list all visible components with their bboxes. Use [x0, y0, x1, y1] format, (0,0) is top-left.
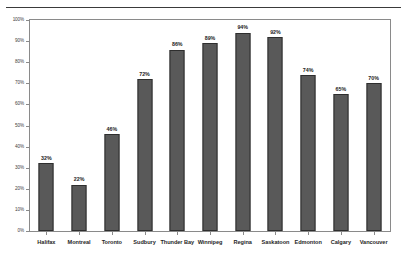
x-axis-tick-mark	[145, 232, 146, 235]
bar-value-label: 46%	[107, 127, 118, 132]
x-axis-tick-mark	[177, 232, 178, 235]
x-axis-tick-mark	[275, 232, 276, 235]
y-axis-tick-label: 90%	[15, 39, 24, 44]
y-axis-tick-mark	[26, 231, 29, 232]
bar-value-label: 65%	[336, 87, 347, 92]
bars-layer: 32%22%46%72%86%89%94%92%74%65%70%	[30, 20, 390, 231]
bar-value-label: 32%	[41, 156, 52, 161]
bar-value-label: 74%	[303, 68, 314, 73]
bar-value-label: 94%	[237, 25, 248, 30]
y-axis-tick-label: 40%	[15, 144, 24, 149]
bar[interactable]	[268, 37, 283, 231]
bar-value-label: 70%	[368, 76, 379, 81]
bar[interactable]	[235, 33, 250, 231]
x-axis-label: Edmonton	[290, 238, 326, 246]
y-axis-tick-label: 70%	[15, 81, 24, 86]
y-axis-tick-mark	[26, 147, 29, 148]
bar-group[interactable]: 74%	[292, 20, 325, 231]
x-axis-label: Montreal	[61, 238, 97, 246]
y-axis-tick-label: 60%	[15, 102, 24, 107]
bar-value-label: 92%	[270, 30, 281, 35]
bar-group[interactable]: 46%	[95, 20, 128, 231]
y-axis-tick-mark	[26, 168, 29, 169]
bar[interactable]	[72, 185, 87, 231]
x-axis-tick-mark	[79, 232, 80, 235]
x-axis-label: Saskatoon	[257, 238, 293, 246]
bar-value-label: 86%	[172, 42, 183, 47]
bar[interactable]	[39, 163, 54, 231]
x-axis-tick-mark	[112, 232, 113, 235]
x-axis-tick-mark	[341, 232, 342, 235]
x-axis	[30, 232, 390, 236]
x-axis-tick-mark	[374, 232, 375, 235]
bar-group[interactable]: 32%	[30, 20, 63, 231]
x-axis-label: Sudbury	[127, 238, 163, 246]
x-axis-label: Calgary	[323, 238, 359, 246]
bar[interactable]	[333, 94, 348, 231]
x-axis-tick-mark	[308, 232, 309, 235]
bar[interactable]	[104, 134, 119, 231]
x-axis-tick-mark	[46, 232, 47, 235]
y-axis-tick-mark	[26, 210, 29, 211]
y-axis-tick-mark	[26, 41, 29, 42]
y-axis-tick-label: 10%	[15, 208, 24, 213]
y-axis-tick-mark	[26, 20, 29, 21]
x-axis-label: Winnipeg	[192, 238, 228, 246]
bar-group[interactable]: 72%	[128, 20, 161, 231]
bar[interactable]	[366, 83, 381, 231]
y-axis-tick-label: 100%	[13, 18, 24, 23]
bar-value-label: 22%	[74, 177, 85, 182]
bar[interactable]	[202, 43, 217, 231]
bar-chart-figure: 0%10%20%30%40%50%60%70%80%90%100% 32%22%…	[0, 0, 407, 271]
bar-group[interactable]: 65%	[325, 20, 358, 231]
y-axis-tick-mark	[26, 62, 29, 63]
bar-group[interactable]: 94%	[226, 20, 259, 231]
bar-group[interactable]: 70%	[357, 20, 390, 231]
bar[interactable]	[170, 50, 185, 231]
y-axis-tick-label: 0%	[18, 229, 24, 234]
x-axis-label: Thunder Bay	[159, 238, 195, 246]
y-axis-tick-mark	[26, 104, 29, 105]
y-axis-tick-label: 50%	[15, 123, 24, 128]
bar[interactable]	[137, 79, 152, 231]
y-axis-tick-mark	[26, 189, 29, 190]
y-axis-tick-label: 30%	[15, 165, 24, 170]
y-axis-tick-mark	[26, 83, 29, 84]
x-axis-tick-mark	[243, 232, 244, 235]
y-axis-tick-label: 80%	[15, 60, 24, 65]
y-axis: 0%10%20%30%40%50%60%70%80%90%100%	[0, 19, 29, 232]
bar-value-label: 72%	[139, 72, 150, 77]
x-axis-tick-mark	[210, 232, 211, 235]
bar-group[interactable]: 22%	[63, 20, 96, 231]
x-axis-label: Regina	[225, 238, 261, 246]
y-axis-tick-mark	[26, 126, 29, 127]
x-axis-label: Halifax	[28, 238, 64, 246]
bar[interactable]	[301, 75, 316, 231]
x-axis-label: Vancouver	[356, 238, 392, 246]
bar-value-label: 89%	[205, 36, 216, 41]
x-axis-labels: HalifaxMontrealTorontoSudburyThunder Bay…	[30, 238, 390, 266]
bar-group[interactable]: 86%	[161, 20, 194, 231]
bar-group[interactable]: 92%	[259, 20, 292, 231]
y-axis-tick-label: 20%	[15, 187, 24, 192]
x-axis-label: Toronto	[94, 238, 130, 246]
bar-group[interactable]: 89%	[194, 20, 227, 231]
